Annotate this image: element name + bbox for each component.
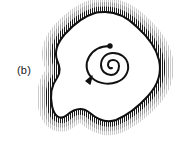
filled-start-dot xyxy=(107,43,112,48)
panel-label: (b) xyxy=(17,64,31,77)
figure-panel: (b) xyxy=(0,0,186,145)
